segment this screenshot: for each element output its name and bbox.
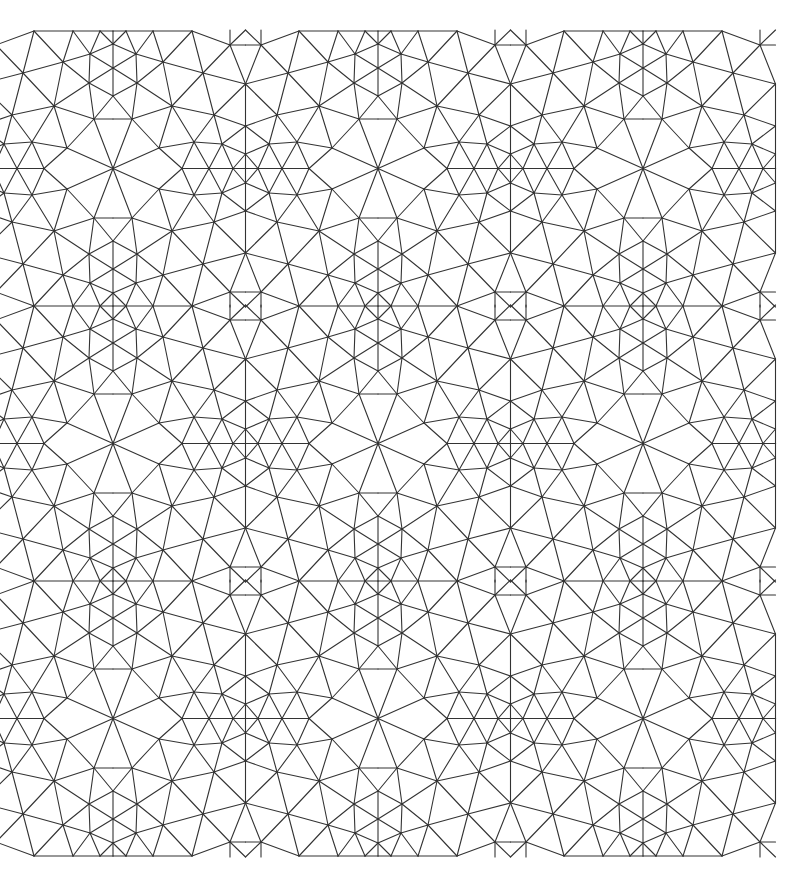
- mesh-edge: [246, 580, 262, 595]
- mesh-edge: [269, 169, 282, 194]
- mesh-edge: [332, 189, 359, 218]
- mesh-edge: [643, 358, 667, 371]
- mesh-edge: [203, 348, 246, 359]
- mesh-edge: [760, 842, 776, 857]
- mesh-edge: [511, 84, 543, 115]
- mesh-edge: [683, 306, 693, 337]
- mesh-edge: [424, 464, 459, 470]
- mesh-edge: [619, 358, 624, 394]
- mesh-edge: [354, 516, 378, 529]
- mesh-edge: [214, 390, 246, 401]
- mesh-edge: [397, 358, 402, 394]
- mesh-edge: [542, 195, 562, 222]
- mesh-edge: [378, 568, 391, 581]
- mesh-edge: [0, 676, 4, 694]
- mesh-edge: [113, 218, 132, 241]
- mesh-edge: [553, 337, 593, 348]
- mesh-edge: [94, 371, 113, 394]
- mesh-edge: [246, 390, 278, 401]
- mesh-edge: [0, 45, 23, 73]
- mesh-edge: [739, 694, 752, 719]
- mesh-edge: [297, 464, 332, 470]
- mesh-edge: [194, 470, 214, 497]
- mesh-edge: [0, 842, 34, 856]
- mesh-edge: [702, 106, 724, 142]
- mesh-edge: [428, 337, 437, 381]
- mesh-edge: [277, 222, 288, 264]
- mesh-edge: [297, 444, 309, 471]
- mesh-edge: [619, 343, 643, 358]
- mesh-edge: [136, 833, 153, 856]
- mesh-edge: [744, 84, 776, 115]
- mesh-edge: [724, 195, 744, 222]
- mesh-edge: [511, 169, 524, 184]
- mesh-edge: [643, 329, 666, 343]
- mesh-edge: [702, 106, 744, 115]
- mesh-edge: [288, 348, 319, 381]
- mesh-edge: [73, 306, 90, 329]
- mesh-edge: [194, 468, 222, 470]
- mesh-edge: [760, 45, 776, 84]
- mesh-edge: [44, 698, 67, 719]
- mesh-edge: [397, 83, 402, 119]
- mesh-edge: [702, 497, 744, 506]
- mesh-edge: [90, 604, 113, 618]
- mesh-edge: [214, 772, 246, 803]
- mesh-edge: [479, 634, 511, 665]
- mesh-edge: [89, 329, 90, 358]
- mesh-edge: [643, 293, 656, 306]
- mesh-edge: [402, 781, 437, 804]
- mesh-edge: [584, 62, 593, 106]
- mesh-edge: [137, 529, 163, 550]
- mesh-edge: [553, 31, 564, 73]
- mesh-edge: [113, 54, 136, 68]
- mesh-edge: [153, 31, 163, 62]
- mesh-edge: [153, 581, 163, 612]
- mesh-edge: [261, 31, 299, 45]
- mesh-edge: [354, 633, 378, 646]
- mesh-edge: [511, 211, 543, 222]
- mesh-edge: [355, 544, 378, 558]
- mesh-edge: [12, 665, 32, 692]
- mesh-edge: [137, 358, 172, 381]
- mesh-edge: [209, 144, 222, 169]
- mesh-edge: [153, 550, 163, 581]
- mesh-edge: [562, 417, 574, 444]
- mesh-edge: [230, 320, 246, 359]
- mesh-edge: [233, 704, 246, 719]
- mesh-edge: [526, 292, 564, 306]
- mesh-edge: [534, 419, 547, 444]
- mesh-edge: [12, 772, 54, 781]
- mesh-edge: [457, 306, 495, 320]
- mesh-edge: [495, 30, 511, 45]
- mesh-edge: [100, 31, 113, 44]
- mesh-edge: [192, 306, 203, 348]
- mesh-edge: [562, 745, 584, 781]
- mesh-edge: [136, 825, 163, 833]
- mesh-edge: [23, 814, 63, 825]
- mesh-edge: [619, 83, 624, 119]
- mesh-edge: [428, 31, 457, 62]
- mesh-edge: [447, 169, 459, 196]
- mesh-edge: [354, 254, 378, 269]
- mesh-edge: [288, 264, 328, 275]
- mesh-edge: [355, 329, 378, 343]
- mesh-edge: [479, 468, 487, 497]
- mesh-edge: [378, 646, 397, 669]
- mesh-edge: [222, 193, 246, 211]
- mesh-edge: [89, 804, 113, 819]
- mesh-edge: [437, 348, 468, 381]
- mesh-edge: [44, 148, 67, 169]
- mesh-edge: [428, 814, 468, 825]
- mesh-edge: [763, 444, 776, 459]
- mesh-edge: [593, 275, 603, 306]
- mesh-edge: [744, 115, 776, 126]
- mesh-edge: [620, 329, 643, 343]
- mesh-edge: [378, 218, 397, 241]
- mesh-edge: [328, 306, 338, 337]
- mesh-edge: [282, 417, 297, 444]
- mesh-edge: [534, 468, 542, 497]
- mesh-edge: [428, 231, 437, 275]
- mesh-edge: [297, 719, 309, 746]
- mesh-edge: [113, 646, 132, 669]
